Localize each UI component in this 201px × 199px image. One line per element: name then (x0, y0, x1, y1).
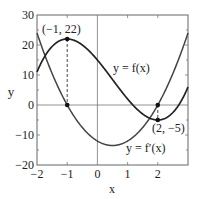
chart: (−1, 22) (2, −5) y = f(x) y = f′(x) 30 2… (0, 0, 201, 199)
x-axis-title: x (109, 182, 115, 196)
x-tick-label: 0 (94, 167, 100, 181)
max-point-marker (65, 37, 70, 42)
max-point-label: (−1, 22) (42, 22, 81, 36)
y-tick-label: 0 (28, 98, 34, 112)
x-tick-labels: −2 −1 0 1 2 (31, 167, 161, 181)
y-tick-label: 30 (22, 8, 34, 22)
x-tick-label: −1 (61, 167, 74, 181)
y-axis-title: y (8, 84, 15, 99)
y-tick-label: 10 (22, 68, 34, 82)
fprime-curve-label: y = f′(x) (126, 141, 165, 155)
x-tick-label: 2 (155, 167, 161, 181)
y-tick-labels: 30 20 10 0 −10 −20 (15, 8, 34, 172)
y-tick-label: 20 (22, 38, 34, 52)
x-tick-label: 1 (125, 167, 131, 181)
f-curve (37, 39, 188, 120)
y-tick-label: −10 (15, 128, 34, 142)
x-tick-label: −2 (31, 167, 44, 181)
fprime-root-marker-right (156, 103, 161, 108)
f-curve-label: y = f(x) (113, 61, 150, 75)
min-point-label: (2, −5) (152, 121, 185, 135)
fprime-root-marker-left (65, 103, 70, 108)
